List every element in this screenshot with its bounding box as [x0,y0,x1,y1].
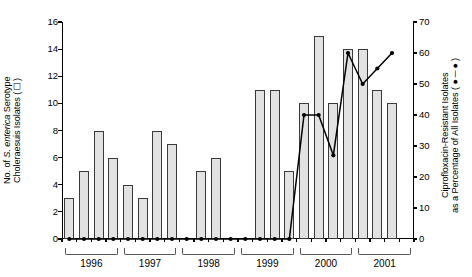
line-marker [214,237,218,241]
y-tick-label-left: 16 [34,16,58,27]
line-marker [229,237,233,241]
y-tick-label-left: 4 [34,179,58,190]
year-label: 2001 [348,258,421,269]
line-marker [243,237,247,241]
line-marker [185,237,189,241]
line-marker [199,237,203,241]
line-marker [287,237,291,241]
plot-area [62,22,414,239]
line-marker [155,237,159,241]
y-tick-label-right: 70 [419,16,443,27]
y-tick-label-left: 2 [34,206,58,217]
x-axis-year-labels: 199619971998199920002001 [62,258,414,272]
line-marker [170,237,174,241]
y-tick-label-right: 60 [419,47,443,58]
y-tick-label-right: 30 [419,140,443,151]
line-marker [375,66,379,70]
line-marker [97,237,101,241]
chart-figure: No. of S. enterica SerotypeCholeraesuis … [0,0,472,277]
year-bracket [241,248,294,255]
line-marker [273,237,277,241]
line-marker [361,82,365,86]
line-marker [258,237,262,241]
y-tick-label-right: 0 [419,233,443,244]
year-bracket [182,248,235,255]
y-tick-label-left: 6 [34,152,58,163]
year-bracket [124,248,177,255]
y-axis-left-title-text: No. of S. enterica SerotypeCholeraesuis … [2,76,22,184]
year-bracket [358,248,411,255]
y-tick-label-right: 40 [419,109,443,120]
y-axis-right-title: Ciprofloxacin-Resistant Isolatesas a Per… [440,22,464,248]
percentage-line [69,53,392,239]
year-bracket [65,248,118,255]
y-tick-label-right: 50 [419,78,443,89]
percentage-line-series [62,22,414,239]
y-tick-label-right: 10 [419,202,443,213]
line-marker [302,113,306,117]
y-tick-label-left: 10 [34,97,58,108]
line-marker [346,51,350,55]
line-marker [331,153,335,157]
line-marker [82,237,86,241]
line-marker [141,237,145,241]
y-tick-label-left: 0 [34,233,58,244]
y-tick-label-left: 8 [34,125,58,136]
line-marker [111,237,115,241]
year-bracket [300,248,353,255]
y-tick-label-left: 12 [34,70,58,81]
line-marker [67,237,71,241]
x-axis-year-brackets [62,248,414,258]
y-tick-label-left: 14 [34,43,58,54]
y-axis-left-title: No. of S. enterica SerotypeCholeraesuis … [2,24,26,236]
y-tick-label-right: 20 [419,171,443,182]
line-marker [390,51,394,55]
line-marker [126,237,130,241]
line-marker [317,113,321,117]
y-axis-right-title-text: Ciprofloxacin-Resistant Isolatesas a Per… [440,57,460,212]
